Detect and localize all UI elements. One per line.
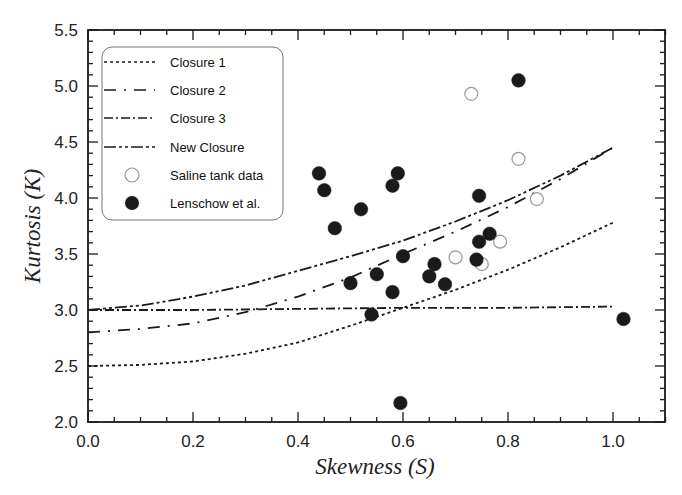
data-points (312, 74, 630, 410)
lenschow-point (386, 285, 400, 299)
lenschow-point (370, 267, 384, 281)
lenschow-point (391, 167, 405, 181)
legend-label-saline-tank: Saline tank data (170, 168, 264, 183)
x-tick-label: 0.8 (496, 432, 520, 451)
y-tick-label: 5.0 (54, 77, 78, 96)
y-axis-title: Kurtosis (K) (20, 169, 45, 284)
filled-circle-marker-icon (125, 196, 139, 210)
lenschow-point (386, 179, 400, 193)
x-tick-label: 1.0 (601, 432, 625, 451)
lenschow-point (365, 308, 379, 322)
lenschow-point (318, 183, 332, 197)
y-tick-label: 3.0 (54, 301, 78, 320)
legend-label-lenschow: Lenschow et al. (170, 196, 260, 211)
legend-label-new-closure: New Closure (170, 140, 244, 155)
lenschow-point (472, 189, 486, 203)
lenschow-point (394, 396, 408, 410)
lenschow-point (470, 253, 484, 267)
curve-closure-1 (88, 223, 613, 366)
y-tick-label: 5.5 (54, 21, 78, 40)
curve-closure-3 (88, 307, 613, 310)
lenschow-point (438, 277, 452, 291)
legend-label-closure-2: Closure 2 (170, 83, 226, 98)
lenschow-point (472, 235, 486, 249)
saline-tank-point (449, 251, 462, 264)
legend-label-closure-3: Closure 3 (170, 111, 226, 126)
y-tick-label: 2.0 (54, 413, 78, 432)
x-tick-label: 0.0 (76, 432, 100, 451)
y-tick-label: 3.5 (54, 245, 78, 264)
scatter-chart: 0.00.20.40.60.81.0 2.02.53.03.54.04.55.0… (0, 0, 682, 495)
saline-tank-point (465, 87, 478, 100)
y-tick-label: 4.5 (54, 133, 78, 152)
x-tick-label: 0.4 (286, 432, 310, 451)
lenschow-point (354, 202, 368, 216)
y-tick-label: 2.5 (54, 357, 78, 376)
lenschow-point (344, 276, 358, 290)
lenschow-point (512, 74, 526, 88)
x-axis-title: Skewness (S) (315, 454, 434, 479)
saline-tank-point (512, 152, 525, 165)
legend-label-closure-1: Closure 1 (170, 55, 226, 70)
x-tick-label: 0.6 (391, 432, 415, 451)
lenschow-point (328, 221, 342, 235)
lenschow-point (396, 249, 410, 263)
lenschow-point (428, 257, 442, 271)
open-circle-marker-icon (125, 168, 139, 182)
x-tick-label: 0.2 (181, 432, 205, 451)
y-tick-label: 4.0 (54, 189, 78, 208)
lenschow-point (617, 312, 631, 326)
legend: Closure 1 Closure 2 Closure 3 New Closur… (102, 47, 283, 220)
legend-box (102, 47, 283, 220)
lenschow-point (423, 270, 437, 284)
lenschow-point (312, 167, 326, 181)
saline-tank-point (530, 193, 543, 206)
